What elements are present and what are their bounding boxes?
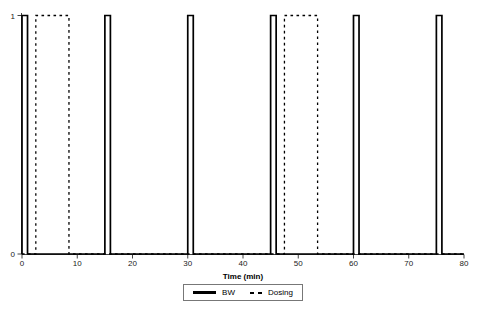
x-tick-label: 70 <box>404 259 413 268</box>
series-line-dosing <box>22 16 464 255</box>
y-tick-label: 1 <box>11 12 16 21</box>
x-tick-label: 80 <box>460 259 469 268</box>
x-tick-label: 30 <box>183 259 192 268</box>
chart-figure: 0102030405060708001 Time (min) BW Dosing <box>0 0 478 309</box>
x-axis-title: Time (min) <box>22 272 464 281</box>
x-tick-label: 10 <box>73 259 82 268</box>
bw-solid-line-sample <box>193 291 216 294</box>
x-tick-label: 0 <box>20 259 25 268</box>
x-tick-label: 20 <box>128 259 137 268</box>
legend-label-dosing: Dosing <box>268 288 293 297</box>
legend-row: BW Dosing <box>22 284 464 301</box>
dosing-dashed-line-sample <box>250 292 262 294</box>
x-tick-label: 60 <box>349 259 358 268</box>
x-tick-label: 50 <box>294 259 303 268</box>
legend-box: BW Dosing <box>183 284 303 301</box>
legend-label-bw: BW <box>222 288 235 297</box>
series-line-bw <box>22 16 464 255</box>
axis-lines <box>22 13 465 255</box>
pulse-chart: 0102030405060708001 <box>0 0 478 272</box>
y-tick-label: 0 <box>11 250 16 259</box>
x-tick-label: 40 <box>239 259 248 268</box>
